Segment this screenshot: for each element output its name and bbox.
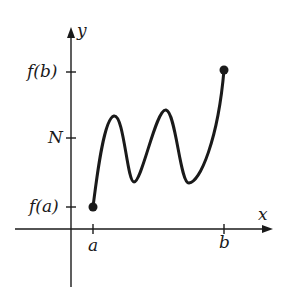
y-axis-arrow-icon [67, 27, 75, 38]
x-tick-label-a: a [88, 237, 98, 254]
function-curve [93, 70, 224, 207]
y-tick-label-n: N [48, 129, 63, 146]
ivt-graph [0, 0, 292, 301]
x-axis-label: x [258, 206, 268, 223]
end-point [220, 66, 229, 75]
x-axis-arrow-icon [262, 225, 273, 233]
y-tick-label-fb: f(b) [27, 63, 57, 80]
x-tick-label-b: b [219, 234, 230, 251]
start-point [89, 203, 98, 212]
y-tick-label-fa: f(a) [29, 198, 59, 215]
y-axis-label: y [77, 22, 87, 39]
